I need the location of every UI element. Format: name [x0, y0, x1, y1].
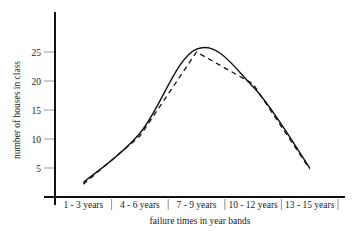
y-tick-label: 10: [32, 135, 42, 145]
series-line-dashed: [83, 52, 309, 184]
y-tick-label: 5: [36, 164, 41, 174]
y-ticks: 510152025: [32, 48, 56, 174]
x-tick-label: 4 - 6 years: [120, 200, 160, 210]
y-axis-title: number of houses in class: [12, 61, 22, 159]
y-tick-label: 20: [32, 77, 42, 87]
y-tick-label: 25: [32, 48, 42, 58]
x-tick-label: 7 - 9 years: [177, 200, 217, 210]
series-line-solid: [83, 47, 309, 182]
x-tick-label: 1 - 3 years: [63, 200, 103, 210]
x-axis-title: failure times in year bands: [150, 216, 251, 226]
chart: 510152025 1 - 3 years4 - 6 years7 - 9 ye…: [0, 0, 356, 231]
x-tick-labels: 1 - 3 years4 - 6 years7 - 9 years10 - 12…: [63, 200, 334, 210]
x-tick-label: 13 - 15 years: [285, 200, 335, 210]
series-group: [83, 47, 309, 184]
y-tick-label: 15: [32, 106, 42, 116]
x-tick-label: 10 - 12 years: [228, 200, 278, 210]
